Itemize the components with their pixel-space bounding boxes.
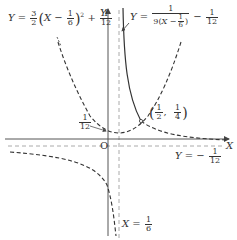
graph-canvas (0, 0, 237, 240)
hyperbola-lhs: Y = (130, 11, 148, 22)
parabola-exponent: 2 (80, 11, 84, 18)
hyperbola-dashed-right-branch (141, 121, 226, 140)
parabola-shift: 16 (67, 10, 74, 27)
hyperbola-equation: Y = 1 9(X −16) − 112 (130, 5, 219, 29)
hyperbola-fraction: 1 9(X −16) (152, 5, 189, 29)
parabola-lhs: Y = (8, 12, 26, 23)
parabola-equation: Y = 32(X − 16)2 + 112 (8, 10, 113, 27)
vertical-asymptote-label: X = 16 (122, 216, 153, 233)
hyperbola-dashed-left-branch (10, 152, 116, 236)
vertex-y-label: 112 (78, 114, 92, 131)
x-axis-label: X (226, 141, 233, 151)
origin-label: O (100, 141, 108, 151)
parabola-const: 112 (100, 10, 112, 27)
intersection-point (139, 119, 142, 122)
parabola-coef: 32 (30, 10, 37, 27)
intersection-label: (12, 14) (149, 104, 188, 121)
parabola-var: X − (44, 12, 63, 23)
hyperbola-const: 112 (206, 9, 218, 26)
hyperbola-minus: − (193, 11, 201, 22)
horizontal-asymptote-label: Y = − 112 (175, 148, 222, 165)
parabola-plus: + (87, 12, 95, 23)
